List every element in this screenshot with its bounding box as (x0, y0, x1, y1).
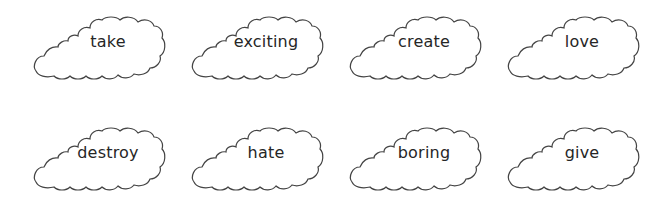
word-cloud-take: take (30, 16, 168, 80)
cloud-word: hate (210, 143, 322, 162)
word-cloud-exciting: exciting (188, 16, 326, 80)
word-cloud-give: give (504, 127, 642, 191)
cloud-word: love (526, 32, 638, 51)
word-cloud-love: love (504, 16, 642, 80)
cloud-word: give (526, 143, 638, 162)
cloud-word: exciting (210, 32, 322, 51)
word-cloud-destroy: destroy (30, 127, 168, 191)
cloud-word: take (52, 32, 164, 51)
cloud-word: boring (368, 143, 480, 162)
word-cloud-boring: boring (346, 127, 484, 191)
cloud-word: destroy (52, 143, 164, 162)
cloud-word: create (368, 32, 480, 51)
word-cloud-create: create (346, 16, 484, 80)
word-cloud-hate: hate (188, 127, 326, 191)
